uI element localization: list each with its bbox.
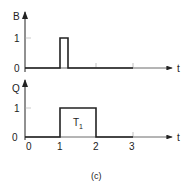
q-plot: Q 1 0 T1 0 1 2 3 t (12, 80, 180, 152)
q-y-label: Q (12, 83, 20, 94)
q-xtick-label-3: 3 (129, 141, 135, 152)
q-pulse-label: T1 (73, 117, 83, 130)
b-x-label: t (177, 63, 180, 74)
q-ytick-1: 1 (14, 103, 20, 114)
figure-caption: (c) (91, 171, 102, 181)
q-xtick-label-2: 2 (93, 141, 99, 152)
timing-diagram: B 1 0 t Q 1 0 T1 0 1 2 3 t (c) (0, 0, 193, 186)
q-xtick-label-0: 0 (26, 141, 32, 152)
b-signal (25, 38, 133, 68)
q-xtick-label-1: 1 (57, 141, 63, 152)
b-ytick-0: 0 (14, 63, 20, 74)
b-plot: B 1 0 t (13, 11, 180, 74)
b-ytick-1: 1 (14, 33, 20, 44)
b-y-label: B (13, 11, 20, 22)
q-x-label: t (177, 132, 180, 143)
q-ytick-0: 0 (12, 132, 18, 143)
